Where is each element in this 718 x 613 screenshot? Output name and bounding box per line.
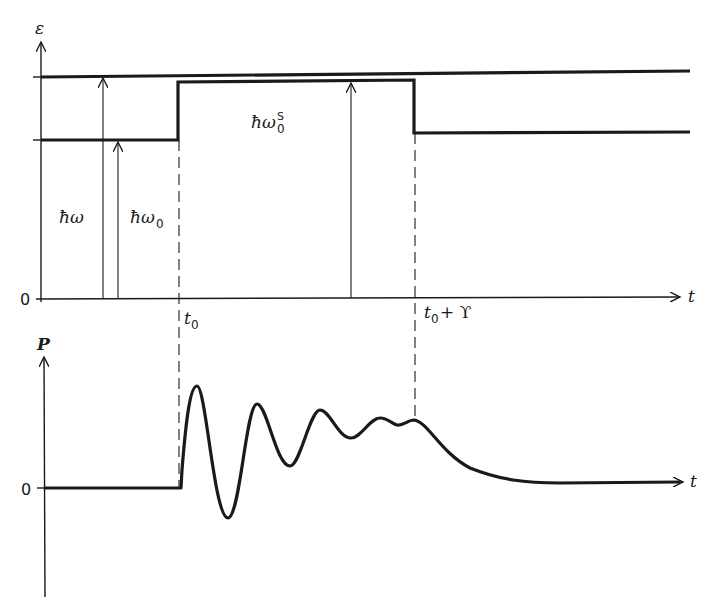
polarization-axis-label: P xyxy=(36,334,51,354)
svg-text:0: 0 xyxy=(191,318,199,332)
top-panel: ε t 0 ħω ħω 0 ħω 0 S t 0 xyxy=(20,18,695,332)
upper-level-line xyxy=(41,71,690,77)
zero-label-top: 0 xyxy=(20,290,30,309)
svg-text:ħω: ħω xyxy=(251,112,276,132)
label-hw0s: ħω 0 S xyxy=(251,110,285,136)
label-t0-plus-upsilon: t 0 + ϒ xyxy=(424,302,472,326)
time-axis-bottom-label: t xyxy=(690,471,697,491)
bottom-panel: P 0 t xyxy=(21,334,697,597)
shifted-level-line xyxy=(41,80,690,140)
time-axis-top-label: t xyxy=(688,286,695,306)
label-t0: t 0 xyxy=(184,308,199,332)
polarization-axis xyxy=(44,357,45,597)
zero-label-bottom: 0 xyxy=(21,480,31,499)
energy-level-diagram: ε t 0 ħω ħω 0 ħω 0 S t 0 xyxy=(0,0,718,613)
svg-text:0: 0 xyxy=(431,312,439,326)
label-hw0: ħω 0 xyxy=(130,207,164,231)
svg-text:S: S xyxy=(277,110,284,123)
energy-axis-label: ε xyxy=(35,18,44,38)
label-hw: ħω xyxy=(59,207,84,227)
svg-text:+ ϒ: + ϒ xyxy=(440,302,472,322)
svg-text:ħω: ħω xyxy=(130,207,155,227)
polarization-response-curve xyxy=(45,386,680,518)
svg-text:0: 0 xyxy=(277,122,285,136)
svg-text:0: 0 xyxy=(156,217,164,231)
svg-text:t: t xyxy=(424,302,431,322)
time-axis-top xyxy=(36,297,680,299)
svg-text:t: t xyxy=(184,308,191,328)
